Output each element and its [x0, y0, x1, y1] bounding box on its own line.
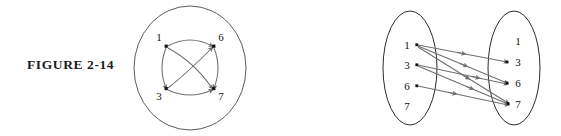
figures-page: FIGURE 2-14 [0, 0, 561, 136]
node-label-6: 6 [218, 31, 224, 43]
figure-2-14-block: FIGURE 2-14 [0, 0, 280, 136]
figure-2-15-drawing: 1 3 6 7 1 3 6 7 [280, 0, 561, 136]
left-node-6-dot [415, 84, 418, 87]
right-item-label-3: 3 [515, 56, 521, 68]
node-6-dot [212, 45, 215, 48]
node-label-3: 3 [156, 90, 162, 102]
node-label-1: 1 [156, 31, 162, 43]
outer-circle [134, 6, 246, 130]
right-item-label-6: 6 [515, 77, 521, 89]
edge-1-to-3 [162, 48, 166, 88]
edge-3-to-6 [168, 48, 212, 88]
left-item-label-6: 6 [404, 80, 410, 92]
edge-1-to-6-midarrow [460, 64, 466, 67]
edge-3-to-6 [418, 65, 507, 84]
edge-3-to-7-midarrow [466, 86, 472, 89]
edge-3-to-7 [168, 90, 212, 95]
node-7-dot [212, 87, 215, 90]
edge-1-to-6 [168, 40, 212, 46]
right-node-6-dot [506, 82, 509, 85]
right-item-label-7: 7 [515, 98, 521, 110]
right-set-ellipse [488, 11, 540, 125]
left-node-3-dot [415, 63, 418, 66]
right-node-3-dot [506, 61, 509, 64]
edge-3-to-7 [418, 66, 508, 104]
edge-3-to-6-midarrow [472, 77, 478, 78]
figure-2-14-drawing: 1 6 3 7 [0, 0, 280, 136]
edge-6-to-7-midarrow [448, 92, 455, 94]
node-1-dot [165, 45, 168, 48]
edge-1-to-3-midarrow [458, 53, 464, 54]
node-3-dot [165, 87, 168, 90]
left-node-1-dot [415, 43, 418, 46]
left-item-label-1: 1 [404, 39, 410, 51]
right-node-7-dot [507, 102, 510, 105]
figure-2-15-block: FIGURE 2-15 [280, 0, 561, 136]
left-set-ellipse [383, 11, 437, 125]
edge-6-to-7 [214, 48, 218, 88]
left-item-label-7: 7 [404, 100, 410, 112]
node-label-7: 7 [218, 90, 224, 102]
left-item-label-3: 3 [404, 59, 410, 71]
right-item-label-1: 1 [515, 35, 521, 47]
